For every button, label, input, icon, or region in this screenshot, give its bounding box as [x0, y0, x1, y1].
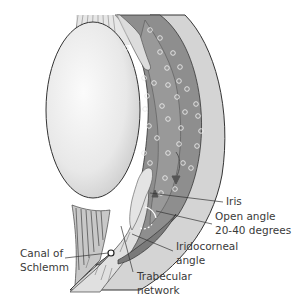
lens [46, 22, 140, 198]
label-iris: Iris [226, 195, 242, 207]
label-canal-1: Canal of [20, 247, 64, 259]
label-open-angle-1: Open angle [215, 210, 276, 222]
label-iridocorneal-2: angle [176, 254, 205, 266]
label-iridocorneal-1: Iridocorneal [176, 240, 238, 252]
label-open-angle-2: 20-40 degrees [215, 224, 291, 236]
canal-of-schlemm-marker [108, 250, 114, 256]
eye-angle-diagram: Iris Open angle 20-40 degrees Iridocorne… [0, 0, 292, 303]
label-canal-2: Schlemm [20, 261, 69, 273]
label-trabecular-1: Trabecular [136, 270, 193, 282]
label-trabecular-2: network [137, 284, 181, 296]
